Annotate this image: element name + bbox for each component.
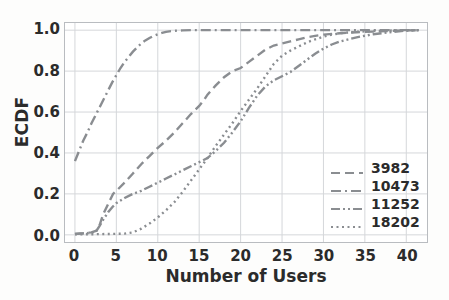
legend-line-sample-dotted bbox=[330, 217, 364, 227]
x-axis-label: Number of Users bbox=[64, 266, 428, 286]
y-tick-label: 1.0 bbox=[16, 20, 60, 38]
legend-label: 3982 bbox=[371, 161, 410, 175]
y-tick-label: 0.0 bbox=[16, 227, 60, 245]
x-tick-label: 0 bbox=[69, 247, 79, 265]
x-tick-label: 5 bbox=[110, 247, 120, 265]
legend-line-sample-dashdotdot bbox=[330, 199, 364, 209]
ecdf-chart-figure: ECDF 0.00.20.40.60.81.0 0510152025303540… bbox=[0, 0, 449, 300]
x-tick-label: 20 bbox=[230, 247, 251, 265]
y-tick-label: 0.6 bbox=[16, 103, 60, 121]
x-tick-label: 30 bbox=[313, 247, 334, 265]
legend-item-18202[interactable]: 18202 bbox=[330, 213, 426, 231]
x-tick-label: 15 bbox=[189, 247, 210, 265]
y-tick-label: 0.8 bbox=[16, 62, 60, 80]
y-tick-label: 0.2 bbox=[16, 185, 60, 203]
legend-line-sample-dashdot bbox=[330, 181, 364, 191]
x-tick-label: 25 bbox=[272, 247, 293, 265]
x-axis-tick-labels: 0510152025303540 bbox=[64, 247, 428, 267]
legend-item-10473[interactable]: 10473 bbox=[330, 177, 426, 195]
legend-label: 10473 bbox=[371, 179, 420, 193]
legend-label: 18202 bbox=[371, 215, 420, 229]
x-tick-label: 10 bbox=[147, 247, 168, 265]
chart-legend: 3982104731125218202 bbox=[330, 157, 426, 233]
legend-item-11252[interactable]: 11252 bbox=[330, 195, 426, 213]
series-line-10473 bbox=[75, 30, 419, 161]
legend-item-3982[interactable]: 3982 bbox=[330, 159, 426, 177]
y-tick-label: 0.4 bbox=[16, 144, 60, 162]
legend-label: 11252 bbox=[371, 197, 420, 211]
y-axis-tick-labels: 0.00.20.40.60.81.0 bbox=[10, 22, 60, 243]
x-tick-label: 35 bbox=[355, 247, 376, 265]
legend-line-sample-dashed bbox=[330, 163, 364, 173]
x-tick-label: 40 bbox=[397, 247, 418, 265]
